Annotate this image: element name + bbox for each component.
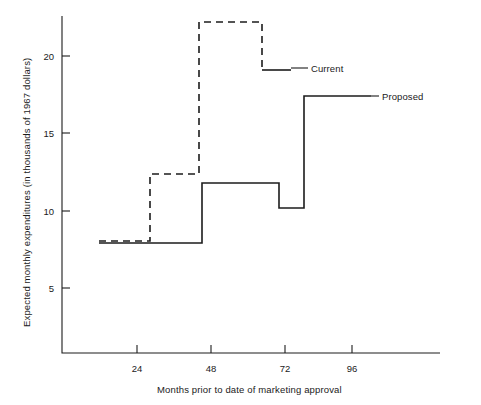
y-tick-label-20: 20 [43, 51, 54, 62]
series-label-proposed: Proposed [382, 91, 423, 102]
x-axis-ticks [137, 345, 352, 353]
series-line-proposed [99, 96, 371, 243]
y-tick-label-10: 10 [43, 206, 54, 217]
step-chart-canvas: 20 15 10 5 24 48 72 96 Months prior to d… [0, 0, 481, 405]
y-axis-ticks [62, 56, 70, 288]
x-axis-title: Months prior to date of marketing approv… [157, 384, 342, 395]
y-tick-label-15: 15 [43, 128, 54, 139]
y-axis-title: Expected monthly expenditures (in thousa… [21, 58, 32, 327]
y-tick-label-5: 5 [49, 283, 54, 294]
series-label-current: Current [311, 63, 344, 74]
x-tick-label-48: 48 [206, 363, 217, 374]
x-tick-label-96: 96 [347, 363, 358, 374]
x-tick-label-72: 72 [280, 363, 291, 374]
series-line-current [99, 22, 262, 241]
axis-lines [62, 16, 440, 353]
y-axis-tick-labels: 20 15 10 5 [43, 51, 54, 294]
x-axis-tick-labels: 24 48 72 96 [132, 363, 358, 374]
chart-figure: 20 15 10 5 24 48 72 96 Months prior to d… [0, 0, 481, 405]
axis-group [62, 16, 440, 353]
x-tick-label-24: 24 [132, 363, 143, 374]
